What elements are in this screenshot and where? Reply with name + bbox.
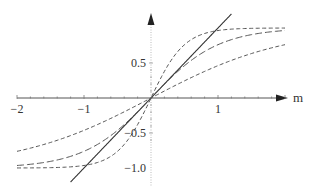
x-axis-label: m	[293, 90, 303, 105]
x-axis-arrow-icon	[276, 95, 288, 102]
y-tick-label: 0.5	[131, 56, 146, 70]
chart: −2−110.5−0.5−1.0 m	[0, 0, 312, 194]
y-tick-label: −0.5	[124, 126, 146, 140]
y-axis-arrow-icon	[148, 13, 155, 25]
y-tick-label: −1.0	[124, 161, 146, 175]
x-tick-label: 1	[215, 102, 221, 116]
x-tick-label: −2	[11, 102, 24, 116]
x-tick-label: −1	[78, 102, 91, 116]
